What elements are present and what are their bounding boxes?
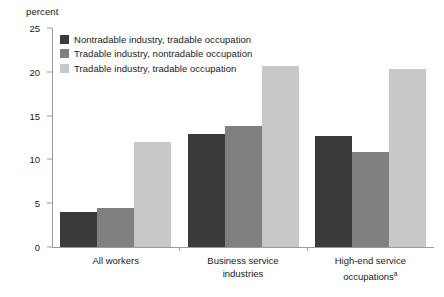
x-axis-category-label: All workers (52, 255, 179, 268)
y-axis-tick-label: 15 (18, 110, 40, 121)
bar-chart: percent 0510152025 All workersBusiness s… (0, 0, 444, 297)
legend-swatch (60, 49, 69, 58)
y-axis-unit-label: percent (26, 6, 58, 17)
y-axis-tick-label: 25 (18, 23, 40, 34)
legend-swatch (60, 64, 69, 73)
bar (262, 66, 299, 247)
x-axis-tick-mark (307, 247, 308, 251)
bar (134, 142, 171, 247)
legend-item: Tradable industry, nontradable occupatio… (60, 48, 252, 60)
legend-swatch (60, 35, 69, 44)
y-axis-tick-label: 5 (18, 198, 40, 209)
bar (315, 136, 352, 247)
bar (352, 152, 389, 247)
legend-label: Tradable industry, tradable occupation (74, 63, 236, 74)
legend-item: Tradable industry, tradable occupation (60, 62, 252, 74)
y-axis-tick-label: 0 (18, 242, 40, 253)
y-axis-tick-label: 20 (18, 66, 40, 77)
bar (97, 208, 134, 247)
x-axis-tick-mark (179, 247, 180, 251)
bar (389, 69, 426, 247)
x-axis-category-label: High-end serviceoccupationsa (307, 255, 434, 283)
footnote-marker: a (394, 270, 398, 277)
legend-item: Nontradable industry, tradable occupatio… (60, 33, 252, 45)
category-label-line: industries (179, 268, 306, 281)
category-label-line: All workers (52, 255, 179, 268)
bar (188, 134, 225, 247)
category-label-line: Business service (179, 255, 306, 268)
x-axis-category-label: Business serviceindustries (179, 255, 306, 280)
legend-label: Nontradable industry, tradable occupatio… (74, 34, 251, 45)
bar (60, 212, 97, 247)
legend-label: Tradable industry, nontradable occupatio… (74, 48, 252, 59)
chart-legend: Nontradable industry, tradable occupatio… (60, 33, 252, 77)
bar (225, 126, 262, 247)
category-label-line: High-end service (307, 255, 434, 268)
y-axis-tick-label: 10 (18, 154, 40, 165)
x-axis-line (52, 247, 434, 248)
category-label-line: occupationsa (307, 268, 434, 284)
